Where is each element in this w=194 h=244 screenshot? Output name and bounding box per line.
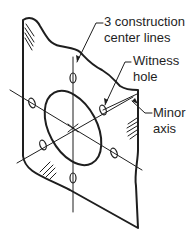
hatch-top-left xyxy=(25,24,34,50)
minor-axis-label-2: axis xyxy=(153,122,176,136)
witness-hole-label-2: hole xyxy=(133,70,158,84)
minor-axis-label-1: Minor xyxy=(153,106,186,120)
hatch-right xyxy=(127,118,137,139)
construction-lines-label-2: center lines xyxy=(104,31,170,45)
plate-outline xyxy=(23,18,138,228)
witness-hole-label-1: Witness xyxy=(133,54,179,68)
minor-axis-line xyxy=(103,94,137,110)
construction-lines-label-1: 3 construction xyxy=(104,15,185,29)
